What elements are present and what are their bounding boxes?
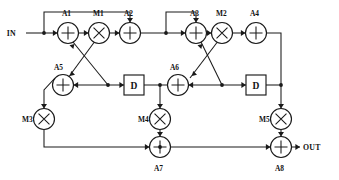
junction-dot-j-d1out [158,83,162,87]
arrowhead-ar-out [295,144,300,150]
wire-w-a6j-a3diag [201,42,222,85]
arrowhead-ar-a1m1 [84,30,89,36]
multiplier-m1[interactable] [89,23,110,44]
signal-flow-diagram: DD A1A2A3A4A5A6A7A8M1M2M3M4M5 INOUT [0,0,339,180]
in-port-label: IN [7,29,16,38]
arrowhead-ar-a3diag [198,44,203,49]
wire-w-m3-bottom [44,130,150,148]
multiplier-label-m2: M2 [216,9,227,18]
arrowhead-ar-in [53,30,58,36]
adder-a2[interactable] [120,23,141,44]
arrowhead-ar-a1diag [70,44,75,49]
junction-dot-j-d2out [279,83,283,87]
junction-dot-j-in [42,31,46,35]
delay-label: D [131,81,138,91]
wire-w-fb1-top [44,12,130,33]
adder-label-a7: A7 [154,164,163,173]
adder-label-a8: A8 [275,164,284,173]
flow-graph-canvas: DD A1A2A3A4A5A6A7A8M1M2M3M4M5 INOUT [0,0,339,180]
arrowhead-ar-m5in [278,104,284,109]
arrowhead-ar-d1in [119,82,124,88]
adder-a1[interactable] [58,23,79,44]
arrowhead-ar-a3m2 [207,30,212,36]
multiplier-m5[interactable] [271,109,292,130]
adder-label-a2: A2 [124,9,133,18]
multiplier-m2[interactable] [212,23,233,44]
arrowhead-ar-fb2 [193,18,199,23]
arrowhead-ar-a6left [189,82,194,88]
delay-block-d1[interactable]: D [124,75,144,95]
out-port-label: OUT [303,143,321,152]
junction-dot-j-a7in [158,145,162,149]
junction-dot-j-a6right [220,83,224,87]
adder-label-a1: A1 [62,9,71,18]
adder-a8[interactable] [271,137,292,158]
adder-a5[interactable] [53,75,74,96]
multiplier-label-m3: M3 [22,115,33,124]
multiplier-label-m5: M5 [259,115,270,124]
adder-label-a5: A5 [54,63,63,72]
adder-a4[interactable] [246,23,267,44]
arrowhead-ar-a8left [266,144,271,150]
arrowhead-ar-a5left [74,82,79,88]
adder-a3[interactable] [186,23,207,44]
adder-label-a3: A3 [190,9,199,18]
junction-dot-j-a2out [164,31,168,35]
arrowhead-ar-m1a2 [115,30,120,36]
delay-block-d2[interactable]: D [246,75,266,95]
arrowhead-ar-m4in [157,104,163,109]
junction-dot-j-a5right [106,83,110,87]
adder-label-a4: A4 [250,9,259,18]
multiplier-m3[interactable] [34,109,55,130]
multiplier-label-m4: M4 [138,115,149,124]
wire-w-a4-down [267,33,282,85]
adder-label-a6: A6 [170,63,179,72]
arrowhead-ar-a2a3 [181,30,186,36]
arrowhead-ar-a7left [145,144,150,150]
arrowhead-ar-fb1 [127,18,133,23]
multiplier-label-m1: M1 [93,9,104,18]
adder-a6[interactable] [168,75,189,96]
arrowhead-ar-a7top [157,132,163,137]
multiplier-m4[interactable] [150,109,171,130]
arrowhead-ar-m2a4 [241,30,246,36]
arrowhead-ar-m3in [41,104,47,109]
arrowhead-ar-a8top [278,132,284,137]
delay-label: D [253,81,260,91]
arrowhead-ar-d2in [241,82,246,88]
